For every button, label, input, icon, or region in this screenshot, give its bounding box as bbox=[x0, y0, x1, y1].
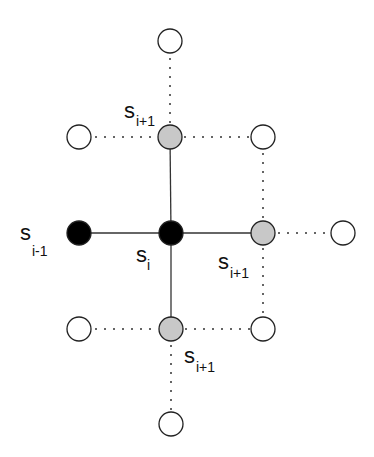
label-s-i: s i bbox=[136, 242, 150, 273]
node-lower-mid-candidate bbox=[159, 317, 183, 341]
node-mid-right-candidate bbox=[251, 221, 275, 245]
node-s-i-minus-1 bbox=[67, 221, 91, 245]
svg-text:s: s bbox=[20, 220, 31, 245]
svg-text:i+1: i+1 bbox=[136, 113, 155, 129]
svg-text:s: s bbox=[218, 249, 229, 274]
svg-text:s: s bbox=[136, 242, 147, 267]
label-s-i-minus-1: s i-1 bbox=[20, 220, 48, 259]
svg-text:i+1: i+1 bbox=[230, 265, 249, 281]
svg-text:i+1: i+1 bbox=[196, 359, 215, 375]
node-lower-left bbox=[67, 317, 91, 341]
bond-s-i-to-up bbox=[170, 137, 171, 233]
node-bottom bbox=[159, 412, 183, 436]
node-s-i bbox=[159, 221, 183, 245]
node-top bbox=[158, 29, 182, 53]
svg-text:i-1: i-1 bbox=[32, 243, 48, 259]
node-lower-right bbox=[251, 317, 275, 341]
node-far-right bbox=[331, 221, 355, 245]
svg-text:s: s bbox=[184, 343, 195, 368]
node-upper-left bbox=[67, 125, 91, 149]
svg-text:s: s bbox=[124, 98, 135, 123]
label-s-i-plus-1-right: s i+1 bbox=[218, 249, 249, 281]
lattice-diagram: s i+1 s i-1 s i s i+1 s i+1 bbox=[0, 0, 374, 457]
node-upper-right bbox=[251, 125, 275, 149]
node-upper-mid-candidate bbox=[158, 125, 182, 149]
label-s-i-plus-1-bottom: s i+1 bbox=[184, 343, 215, 375]
svg-text:i: i bbox=[147, 257, 150, 273]
label-s-i-plus-1-top: s i+1 bbox=[124, 98, 155, 129]
